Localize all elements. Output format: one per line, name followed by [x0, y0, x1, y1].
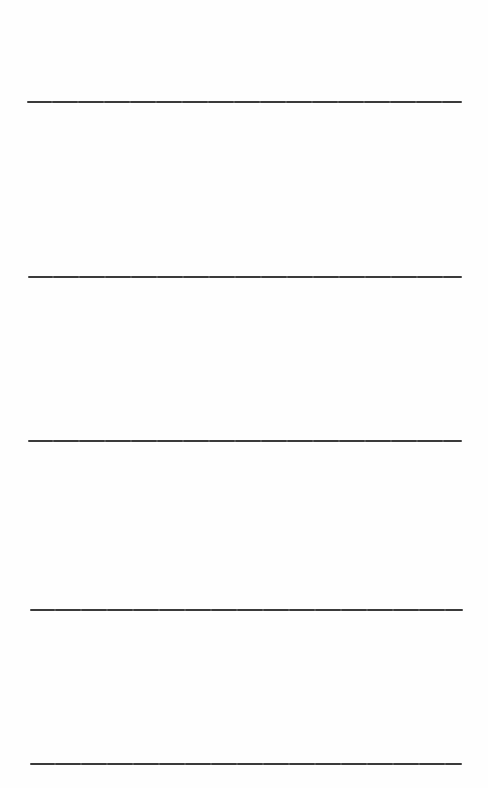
blank-field-3	[28, 399, 462, 439]
blank-field-1	[28, 60, 462, 100]
horizontal-rule-5	[30, 763, 462, 765]
horizontal-rule-2	[28, 276, 462, 278]
blank-field-4	[28, 568, 462, 608]
horizontal-rule-1	[27, 101, 462, 103]
horizontal-rule-3	[28, 440, 462, 442]
blank-field-2	[28, 235, 462, 275]
horizontal-rule-4	[30, 609, 463, 611]
blank-field-5	[28, 722, 462, 762]
document-page	[0, 0, 488, 788]
